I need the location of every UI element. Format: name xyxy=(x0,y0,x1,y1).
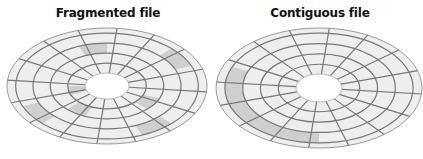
fragmented-disk xyxy=(7,28,207,144)
spindle-hole xyxy=(296,74,342,102)
disk-diagrams xyxy=(0,0,423,159)
spindle-hole xyxy=(85,73,129,99)
contiguous-disk xyxy=(216,28,422,148)
